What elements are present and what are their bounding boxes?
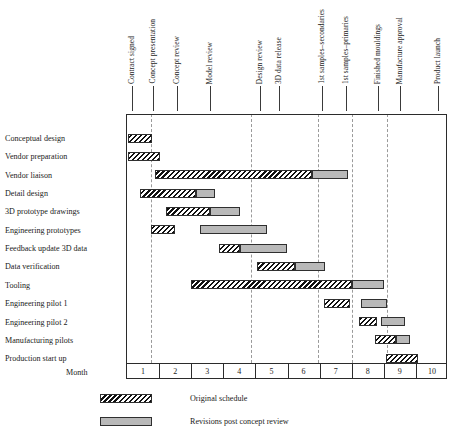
- legend-swatch: [100, 394, 152, 403]
- month-separator: [288, 364, 289, 378]
- milestone-tick: [378, 86, 379, 111]
- month-tick-label: 3: [191, 364, 223, 378]
- month-tick-label: 4: [223, 364, 255, 378]
- bar-original-schedule: [166, 207, 210, 216]
- month-axis: 12345678910: [126, 363, 447, 379]
- bar-original-schedule: [386, 354, 418, 363]
- milestone-label: Manufacture approval: [396, 17, 403, 84]
- bar-original-schedule: [324, 299, 350, 308]
- bar-original-schedule: [257, 262, 295, 271]
- milestone-tick: [177, 86, 178, 111]
- bar-revision: [295, 262, 325, 271]
- month-separator: [159, 364, 160, 378]
- task-label: Detail design: [5, 190, 459, 198]
- legend-label: Original schedule: [190, 395, 247, 403]
- bar-revision: [381, 317, 405, 326]
- month-separator: [416, 364, 417, 378]
- bar-revision: [240, 244, 287, 253]
- milestone-label: Finished mouldings: [374, 24, 381, 84]
- task-label: Vendor preparation: [5, 153, 459, 161]
- task-label: Engineering pilot 1: [5, 300, 459, 308]
- bar-revision: [210, 207, 240, 216]
- month-separator: [255, 364, 256, 378]
- month-separator: [320, 364, 321, 378]
- milestone-tick: [132, 86, 133, 111]
- bar-revision: [352, 280, 384, 289]
- bar-revision: [361, 299, 387, 308]
- month-separator: [191, 364, 192, 378]
- bar-revision: [312, 170, 348, 179]
- bar-original-schedule: [191, 280, 352, 289]
- milestone-tick: [400, 86, 401, 111]
- month-separator: [352, 364, 353, 378]
- milestone-tick: [260, 86, 261, 111]
- bar-original-schedule: [140, 189, 196, 198]
- month-tick-label: 5: [255, 364, 287, 378]
- milestone-label: 1st samples–secondaries: [318, 9, 325, 84]
- task-label: Data verification: [5, 263, 459, 271]
- month-tick-label: 7: [320, 364, 352, 378]
- milestone-label: Design review: [256, 40, 263, 84]
- gantt-chart: Contract signedConcept presentationConce…: [0, 0, 459, 432]
- milestone-tick: [153, 86, 154, 111]
- milestone-tick: [210, 86, 211, 111]
- bar-revision: [196, 189, 215, 198]
- milestone-label: 1st samples–primaries: [342, 16, 349, 84]
- task-label: Conceptual design: [5, 135, 459, 143]
- bar-original-schedule: [151, 225, 175, 234]
- milestone-label: Model review: [206, 42, 213, 84]
- milestone-tick: [279, 86, 280, 111]
- bar-original-schedule: [359, 317, 377, 326]
- bar-original-schedule: [128, 152, 160, 161]
- bar-original-schedule: [155, 170, 312, 179]
- milestone-label: Product launch: [434, 38, 441, 84]
- month-separator: [384, 364, 385, 378]
- month-tick-label: 8: [352, 364, 384, 378]
- month-separator: [223, 364, 224, 378]
- bar-revision: [396, 335, 410, 344]
- month-tick-label: 2: [159, 364, 191, 378]
- milestone-label: Concept presentation: [149, 19, 156, 84]
- milestone-tick: [438, 86, 439, 111]
- month-tick-label: 6: [288, 364, 320, 378]
- legend-swatch: [100, 417, 152, 426]
- bar-revision: [200, 225, 267, 234]
- bar-original-schedule: [128, 134, 152, 143]
- month-tick-label: 10: [416, 364, 448, 378]
- month-tick-label: 1: [127, 364, 159, 378]
- month-tick-label: 9: [384, 364, 416, 378]
- milestone-label: Contract signed: [128, 36, 135, 84]
- milestone-tick: [346, 86, 347, 111]
- month-axis-title: Month: [66, 368, 88, 377]
- milestone-tick: [322, 86, 323, 111]
- bar-original-schedule: [375, 335, 396, 344]
- milestone-label: 3D data release: [275, 37, 282, 84]
- bar-original-schedule: [219, 244, 240, 253]
- milestone-label: Concept review: [173, 36, 180, 84]
- legend-label: Revisions post concept review: [190, 418, 289, 426]
